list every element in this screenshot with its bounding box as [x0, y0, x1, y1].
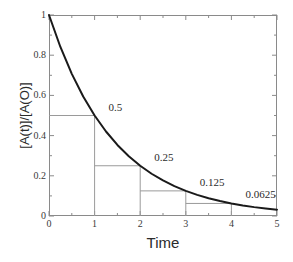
curve-value-label: 0.0625 [245, 189, 275, 200]
decay-curve-line [49, 15, 277, 210]
decay-chart-figure: 00.20.40.60.81 012345 0.50.250.1250.0625… [0, 0, 293, 262]
curve-value-label: 0.125 [200, 177, 225, 188]
plot-canvas [0, 0, 293, 262]
y-axis-title: [A(t)]/[A(O)] [17, 36, 32, 196]
curve-value-label: 0.5 [109, 102, 123, 113]
x-axis-title: Time [49, 234, 277, 251]
curve-value-label: 0.25 [154, 152, 173, 163]
